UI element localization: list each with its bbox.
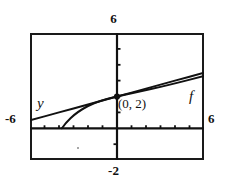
window-ymax-label: 6 xyxy=(0,12,227,25)
point-annotation-label: (0, 2) xyxy=(118,97,146,110)
plot-canvas xyxy=(30,33,204,160)
print-speck xyxy=(77,147,79,149)
window-xmax-label: 6 xyxy=(208,112,215,125)
figure-root: 6 -2 -6 6 xyxy=(0,0,227,187)
window-xmin-label: -6 xyxy=(5,112,16,125)
curve-label-y: y xyxy=(37,96,44,111)
window-ymin-label: -2 xyxy=(0,164,227,177)
curve-label-f: f xyxy=(189,89,193,104)
